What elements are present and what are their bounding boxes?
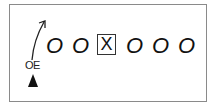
offensive-player-4: O (126, 35, 143, 57)
center-player-symbol: X (100, 34, 112, 54)
offensive-player-1: O (46, 35, 63, 57)
offensive-player-5: O (152, 35, 169, 57)
offensive-player-2: O (72, 35, 89, 57)
triangle-marker-icon (28, 74, 38, 87)
offensive-player-6: O (178, 35, 195, 57)
center-player-box: X (97, 34, 116, 55)
oe-label: OE (25, 59, 40, 71)
